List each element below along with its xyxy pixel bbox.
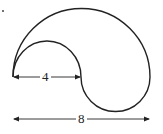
stray-dot: [2, 10, 4, 12]
large-arc: [13, 9, 150, 77]
lower-small-arc: [81, 77, 150, 111]
arrowhead-left-icon: [13, 117, 19, 122]
arrowhead-left-icon: [13, 75, 19, 80]
arrowhead-right-icon: [144, 117, 150, 122]
arrowhead-right-icon: [75, 75, 81, 80]
label-outer-width: 8: [76, 112, 87, 125]
label-inner-width: 4: [40, 70, 51, 83]
